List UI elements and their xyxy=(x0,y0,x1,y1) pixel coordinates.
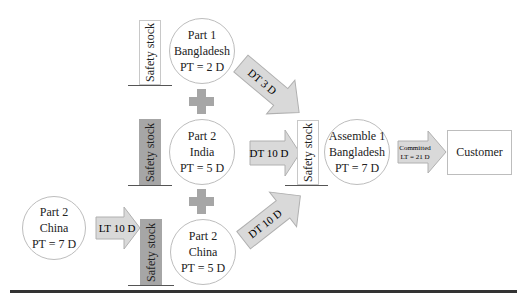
dt-china-arrow: DT 10 D xyxy=(230,178,314,257)
node-location: China xyxy=(181,244,225,260)
node-part2-china-supplier: Part 2 China PT = 7 D xyxy=(22,196,86,260)
node-processing-time: PT = 7 D xyxy=(329,160,385,176)
node-processing-time: PT = 5 D xyxy=(180,160,224,176)
node-customer: Customer xyxy=(447,130,512,175)
bottom-divider xyxy=(10,290,517,293)
node-title: Part 2 xyxy=(180,128,224,144)
safety-stock-label: Safety stock xyxy=(144,223,159,282)
committed-lt-arrow: Committed LT = 21 D xyxy=(398,131,446,173)
safety-stock-part2-india: Safety stock xyxy=(139,119,161,185)
safety-stock-label: Safety stock xyxy=(143,123,158,182)
node-title: Part 1 xyxy=(174,27,230,43)
node-assemble1-bangladesh: Assemble 1 Bangladesh PT = 7 D xyxy=(324,119,390,185)
safety-stock-base-line xyxy=(128,285,174,286)
committed-label: Committed xyxy=(399,144,431,152)
node-processing-time: PT = 5 D xyxy=(181,260,225,276)
node-location: Bangladesh xyxy=(174,43,230,59)
safety-stock-base-line xyxy=(128,185,172,186)
node-title: Part 2 xyxy=(32,204,76,220)
node-part2-india: Part 2 India PT = 5 D xyxy=(169,119,235,185)
dt-india-label: DT 10 D xyxy=(250,147,289,159)
dt-india-arrow: DT 10 D xyxy=(250,130,300,176)
node-location: China xyxy=(32,220,76,236)
dt-part1-arrow: DT 3 D xyxy=(227,47,314,130)
safety-stock-base-line xyxy=(285,185,328,186)
safety-stock-part1: Safety stock xyxy=(139,20,161,85)
customer-label: Customer xyxy=(456,145,503,160)
lt-china-arrow: LT 10 D xyxy=(96,207,140,249)
committed-lt-value: LT = 21 D xyxy=(400,153,429,161)
node-location: Bangladesh xyxy=(329,144,385,160)
node-processing-time: PT = 7 D xyxy=(32,236,76,252)
node-title: Assemble 1 xyxy=(329,128,385,144)
plus-icon xyxy=(189,89,214,114)
plus-icon xyxy=(189,189,214,214)
safety-stock-base-line xyxy=(128,85,172,86)
safety-stock-assembly: Safety stock xyxy=(297,120,319,185)
node-part2-china: Part 2 China PT = 5 D xyxy=(170,219,236,285)
safety-stock-label: Safety stock xyxy=(143,23,158,82)
node-processing-time: PT = 2 D xyxy=(174,59,230,75)
node-location: India xyxy=(180,144,224,160)
safety-stock-label: Safety stock xyxy=(301,123,316,182)
node-title: Part 2 xyxy=(181,228,225,244)
lt-china-label: LT 10 D xyxy=(99,222,136,234)
safety-stock-part2-china: Safety stock xyxy=(140,219,162,285)
node-part1-bangladesh: Part 1 Bangladesh PT = 2 D xyxy=(169,18,235,84)
